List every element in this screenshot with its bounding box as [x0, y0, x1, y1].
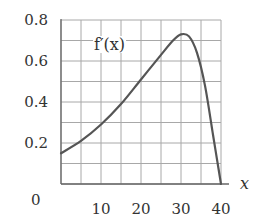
x-tick-label: 40: [211, 200, 230, 217]
origin-label: 0: [31, 191, 41, 209]
x-tick-label: 20: [131, 200, 150, 217]
x-axis-label: x: [240, 174, 249, 193]
grid-lines: [61, 20, 221, 184]
chart: 0.20.40.60.8 10203040 0 x f′(x): [0, 0, 255, 217]
x-tick-label: 10: [91, 200, 110, 217]
y-tick-label: 0.2: [24, 134, 48, 152]
y-tick-label: 0.6: [24, 52, 48, 70]
x-tick-label: 30: [171, 200, 190, 217]
curve-label: f′(x): [94, 35, 125, 54]
y-tick-labels: 0.20.40.60.8: [24, 11, 48, 152]
y-tick-label: 0.4: [24, 93, 48, 111]
y-tick-label: 0.8: [24, 11, 48, 29]
x-tick-labels: 10203040: [91, 200, 230, 217]
